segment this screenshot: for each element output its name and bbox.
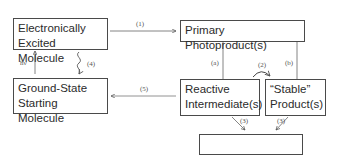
node-excited-line1: Electronically: [18, 21, 103, 36]
edge-label-1: (1): [136, 20, 144, 28]
node-reactive-line2: Intermediate(s): [185, 97, 255, 112]
edge-label-2: (2): [258, 61, 266, 69]
node-reactive-line1: Reactive: [185, 82, 255, 97]
edge-label-5: (5): [140, 85, 148, 93]
edge-label-3b: (3): [277, 117, 285, 125]
node-biological-response: Biological Response: [199, 134, 303, 155]
node-stable-product: “Stable” Product(s): [265, 79, 326, 116]
node-primary-line1: Primary Photoproduct(s): [185, 23, 300, 53]
node-excited-molecule: Electronically Excited Molecule: [13, 18, 108, 50]
node-ground-state-molecule: Ground-State Starting Molecule: [13, 78, 108, 114]
node-primary-photoproduct: Primary Photoproduct(s): [180, 20, 305, 42]
edge-reactive-to-stable-curved: [253, 72, 270, 77]
node-reactive-intermediate: Reactive Intermediate(s): [180, 79, 260, 116]
node-ground-line1: Ground-State: [18, 81, 103, 96]
edge-label-b: (b): [285, 59, 293, 67]
edge-label-hv: hν: [20, 59, 27, 67]
node-ground-line2: Starting Molecule: [18, 96, 103, 126]
node-stable-line1: “Stable”: [270, 82, 321, 97]
node-stable-line2: Product(s): [270, 97, 321, 112]
edge-label-a: (a): [211, 59, 219, 67]
edge-label-4: (4): [87, 60, 95, 68]
edge-label-3a: (3): [240, 117, 248, 125]
